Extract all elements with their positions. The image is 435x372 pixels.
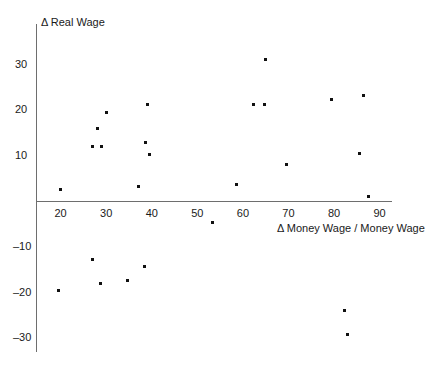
x-tick-label: 90 bbox=[368, 208, 392, 219]
data-point bbox=[343, 309, 346, 312]
data-point bbox=[148, 153, 151, 156]
data-point bbox=[146, 103, 149, 106]
data-point bbox=[211, 221, 214, 224]
y-axis-line bbox=[36, 24, 37, 352]
data-point bbox=[59, 188, 62, 191]
data-point bbox=[96, 127, 99, 130]
data-point bbox=[105, 111, 108, 114]
data-point bbox=[358, 152, 361, 155]
x-tick-label: 30 bbox=[94, 208, 118, 219]
data-point bbox=[330, 98, 333, 101]
x-tick-label: 50 bbox=[185, 208, 209, 219]
x-axis-line bbox=[36, 201, 392, 202]
data-point bbox=[100, 145, 103, 148]
data-point bbox=[91, 145, 94, 148]
data-point bbox=[346, 333, 349, 336]
data-point bbox=[126, 279, 129, 282]
y-tick-label: 30 bbox=[15, 59, 27, 70]
data-point bbox=[99, 282, 102, 285]
y-tick-label: –30 bbox=[13, 332, 31, 343]
x-tick-label: 80 bbox=[322, 208, 346, 219]
data-point bbox=[263, 103, 266, 106]
y-tick-label: –10 bbox=[13, 241, 31, 252]
data-point bbox=[252, 103, 255, 106]
data-point bbox=[57, 289, 60, 292]
y-tick-label: 10 bbox=[15, 150, 27, 161]
x-tick-label: 20 bbox=[49, 208, 73, 219]
data-point bbox=[144, 141, 147, 144]
y-tick-label: 20 bbox=[15, 104, 27, 115]
data-point bbox=[143, 265, 146, 268]
data-point bbox=[235, 183, 238, 186]
data-point bbox=[91, 258, 94, 261]
x-tick-label: 60 bbox=[231, 208, 255, 219]
scatter-plot: Δ Real Wage Δ Money Wage / Money Wage 30… bbox=[0, 0, 435, 372]
y-axis-title: Δ Real Wage bbox=[41, 16, 105, 28]
data-point bbox=[285, 163, 288, 166]
x-axis-title: Δ Money Wage / Money Wage bbox=[277, 222, 425, 234]
x-tick-label: 40 bbox=[140, 208, 164, 219]
data-point bbox=[367, 195, 370, 198]
y-tick-label: –20 bbox=[13, 287, 31, 298]
x-tick-label: 70 bbox=[276, 208, 300, 219]
data-point bbox=[362, 94, 365, 97]
data-point bbox=[137, 185, 140, 188]
data-point bbox=[264, 58, 267, 61]
